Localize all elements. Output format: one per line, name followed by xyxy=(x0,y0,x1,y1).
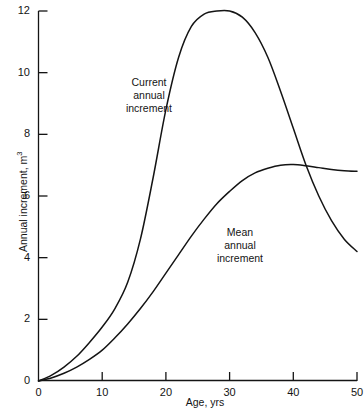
y-axis-tick-label: 8 xyxy=(4,128,30,139)
chart-series-lines xyxy=(39,10,358,381)
chart-axes xyxy=(39,11,358,381)
annotation-line: increment xyxy=(113,102,185,115)
chart-plot-area xyxy=(0,0,364,417)
y-axis-tick-label: 4 xyxy=(4,252,30,263)
annotation-line: increment xyxy=(204,252,276,265)
x-axis-tick-label: 0 xyxy=(24,387,54,398)
y-axis-tick-label: 12 xyxy=(4,5,30,16)
x-axis-tick-label: 50 xyxy=(342,387,364,398)
series-annotation-current-annual-increment: Currentannualincrement xyxy=(113,76,185,115)
x-axis-title: Age, yrs xyxy=(150,397,260,408)
series-annotation-mean-annual-increment: Meanannualincrement xyxy=(204,226,276,265)
y-axis-tick-label: 10 xyxy=(4,67,30,78)
series-line-0 xyxy=(39,10,358,381)
annotation-line: Mean xyxy=(204,226,276,239)
annual-increment-chart: 024681012 01020304050 Annual increment, … xyxy=(0,0,364,417)
series-line-1 xyxy=(39,165,358,381)
x-axis-tick-label: 10 xyxy=(87,387,117,398)
x-axis-tick-label: 40 xyxy=(278,387,308,398)
y-axis-title: Annual increment, m3 xyxy=(14,152,29,252)
annotation-line: Current xyxy=(113,76,185,89)
y-axis-title-superscript: 3 xyxy=(15,152,24,156)
x-axis-ticks xyxy=(102,372,357,381)
annotation-line: annual xyxy=(113,89,185,102)
y-axis-ticks xyxy=(39,11,48,319)
y-axis-tick-label: 2 xyxy=(4,313,30,324)
annotation-line: annual xyxy=(204,239,276,252)
y-axis-tick-label: 0 xyxy=(4,375,30,386)
